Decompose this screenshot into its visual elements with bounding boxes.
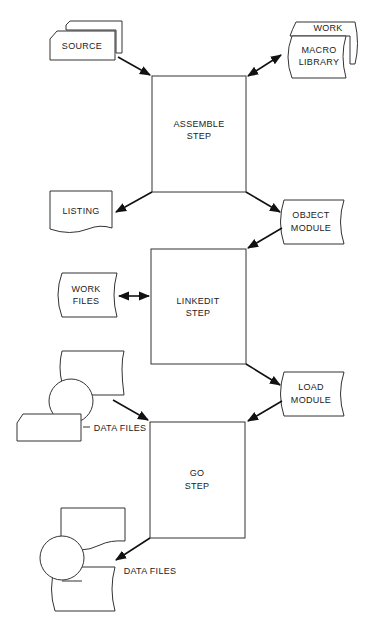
library-label: LIBRARY xyxy=(299,57,339,67)
assemble-step-box[interactable]: ASSEMBLE STEP xyxy=(152,76,246,192)
arrow-source-to-assemble xyxy=(118,57,150,75)
work-files-label-1: WORK xyxy=(71,284,100,294)
assemble-step-label-2: STEP xyxy=(187,131,212,141)
listing-label: LISTING xyxy=(62,206,99,216)
module-label-object: MODULE xyxy=(291,223,331,233)
linkedit-step-box[interactable]: LINKEDIT STEP xyxy=(151,249,246,364)
work-back-label: WORK xyxy=(313,23,342,33)
arrow-data-files-in-to-go xyxy=(113,400,148,420)
object-module-dataset[interactable]: OBJECT MODULE xyxy=(281,200,345,244)
macro-label: MACRO xyxy=(302,45,337,55)
object-label: OBJECT xyxy=(292,210,330,220)
job-flow-diagram: ASSEMBLE STEP LINKEDIT STEP GO STEP SOUR… xyxy=(0,0,370,630)
arrow-linkedit-to-load-module xyxy=(246,364,280,385)
linkedit-step-label-2: STEP xyxy=(186,308,211,318)
arrow-object-module-to-linkedit xyxy=(248,228,282,248)
source-card-deck[interactable]: SOURCE xyxy=(50,21,122,60)
module-label-load: MODULE xyxy=(291,395,331,405)
arrow-assemble-to-object-module xyxy=(246,192,280,212)
go-step-label-2: STEP xyxy=(185,481,210,491)
arrow-assemble-to-listing xyxy=(116,192,152,212)
work-files-dataset[interactable]: WORK FILES xyxy=(58,273,117,317)
go-step-box[interactable]: GO STEP xyxy=(150,422,245,538)
load-module-dataset[interactable]: LOAD MODULE xyxy=(281,372,345,416)
linkedit-step-label-1: LINKEDIT xyxy=(177,296,220,306)
arrow-load-module-to-go xyxy=(248,401,282,421)
listing-document[interactable]: LISTING xyxy=(50,191,112,233)
source-label: SOURCE xyxy=(62,41,102,51)
load-label: LOAD xyxy=(298,382,324,392)
data-files-in-label: DATA FILES xyxy=(94,423,147,433)
macro-library-dataset[interactable]: WORK MACRO LIBRARY xyxy=(288,22,358,78)
data-files-out-label: DATA FILES xyxy=(124,566,177,576)
work-files-label-2: FILES xyxy=(73,296,100,306)
arrow-macro-library-assemble xyxy=(248,55,281,76)
go-step-label-1: GO xyxy=(190,468,205,478)
data-files-input[interactable]: DATA FILES xyxy=(17,351,146,441)
assemble-step-label-1: ASSEMBLE xyxy=(174,119,225,129)
